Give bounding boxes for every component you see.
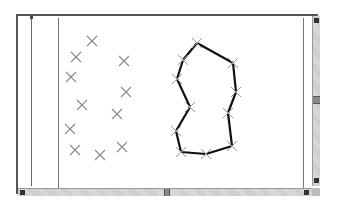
polygon-shape[interactable] — [176, 43, 236, 154]
plot-overlay — [0, 0, 337, 213]
scatter-markers — [65, 36, 131, 160]
